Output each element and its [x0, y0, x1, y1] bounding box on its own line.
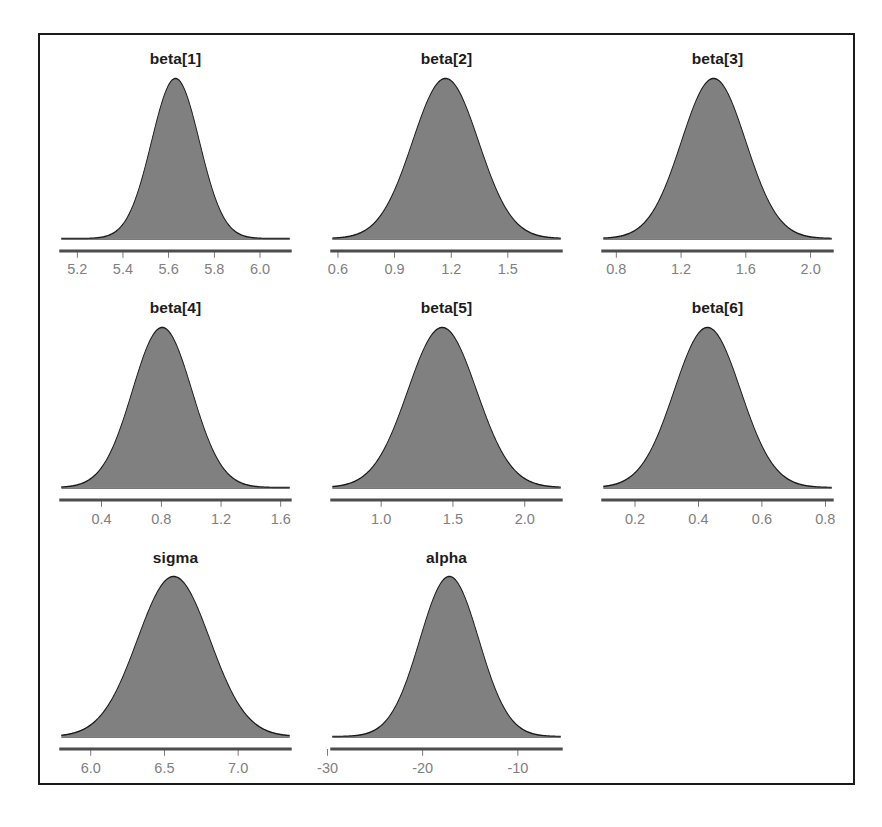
- density-fill: [603, 78, 831, 238]
- panel-title: beta[2]: [421, 51, 473, 67]
- panel-title: beta[5]: [421, 300, 473, 316]
- density-fill: [61, 577, 289, 737]
- density-svg: [50, 71, 301, 262]
- x-axis-tick-labels: 0.60.91.21.5: [321, 262, 572, 284]
- x-axis-tick-labels: 0.81.21.62.0: [592, 262, 843, 284]
- density-curve-area: [50, 569, 301, 760]
- density-curve-area: [592, 320, 843, 511]
- x-tick-label: 2.0: [801, 262, 821, 277]
- density-fill: [332, 577, 560, 737]
- panel-title: beta[3]: [692, 51, 744, 67]
- x-tick-label: 1.6: [736, 262, 756, 277]
- density-svg: [321, 71, 572, 262]
- density-panel-sigma: sigma6.06.57.0: [40, 534, 311, 783]
- density-panel-beta4: beta[4]0.40.81.21.6: [40, 284, 311, 533]
- x-axis-tick-labels: 5.25.45.65.86.0: [50, 262, 301, 284]
- density-curve-area: [321, 320, 572, 511]
- x-tick-label: 1.5: [498, 262, 518, 277]
- density-panel-alpha: alpha-30-20-10: [311, 534, 582, 783]
- density-fill: [332, 78, 560, 238]
- panel-title: sigma: [153, 550, 198, 566]
- density-panel-beta2: beta[2]0.60.91.21.5: [311, 35, 582, 284]
- density-curve-area: [321, 71, 572, 262]
- density-curve-area: [321, 569, 572, 760]
- density-fill: [61, 78, 289, 238]
- density-svg: [50, 569, 301, 760]
- panel-title: beta[6]: [692, 300, 744, 316]
- density-panel-beta6: beta[6]0.20.40.60.8: [582, 284, 853, 533]
- x-tick-label: 0.4: [688, 512, 708, 527]
- panel-title: alpha: [426, 550, 467, 566]
- density-svg: [592, 320, 843, 511]
- panel-title: beta[1]: [150, 51, 202, 67]
- x-tick-label: 0.8: [815, 512, 835, 527]
- x-axis-tick-labels: 0.40.81.21.6: [50, 512, 301, 534]
- density-panel-beta1: beta[1]5.25.45.65.86.0: [40, 35, 311, 284]
- density-svg: [321, 569, 572, 760]
- panel-title: beta[4]: [150, 300, 202, 316]
- figure-frame: beta[1]5.25.45.65.86.0beta[2]0.60.91.21.…: [38, 33, 855, 785]
- x-tick-label: -30: [317, 761, 338, 776]
- x-tick-label: 0.2: [625, 512, 645, 527]
- x-tick-label: 1.2: [211, 512, 231, 527]
- x-tick-label: 1.0: [371, 512, 391, 527]
- x-tick-label: 5.2: [67, 262, 87, 277]
- x-tick-label: 1.2: [441, 262, 461, 277]
- x-tick-label: 0.9: [384, 262, 404, 277]
- x-tick-label: 1.5: [443, 512, 463, 527]
- x-tick-label: 1.2: [671, 262, 691, 277]
- density-panel-beta5: beta[5]1.01.52.0: [311, 284, 582, 533]
- x-tick-label: 5.4: [113, 262, 133, 277]
- x-tick-label: 2.0: [515, 512, 535, 527]
- x-tick-label: 0.8: [151, 512, 171, 527]
- x-tick-label: 0.6: [752, 512, 772, 527]
- x-tick-label: -20: [412, 761, 433, 776]
- x-tick-label: 6.0: [81, 761, 101, 776]
- x-tick-label: 5.6: [159, 262, 179, 277]
- x-axis-tick-labels: 1.01.52.0: [321, 512, 572, 534]
- density-svg: [50, 320, 301, 511]
- density-fill: [332, 327, 560, 487]
- x-tick-label: 1.6: [271, 512, 291, 527]
- density-svg: [321, 320, 572, 511]
- density-curve-area: [50, 320, 301, 511]
- density-fill: [61, 327, 289, 487]
- density-curve-area: [592, 71, 843, 262]
- density-fill: [603, 327, 831, 487]
- x-tick-label: 5.8: [204, 262, 224, 277]
- density-svg: [592, 71, 843, 262]
- x-tick-label: -10: [507, 761, 528, 776]
- x-tick-label: 0.6: [328, 262, 348, 277]
- x-axis-tick-labels: 6.06.57.0: [50, 761, 301, 783]
- x-tick-label: 0.8: [606, 262, 626, 277]
- panel-grid: beta[1]5.25.45.65.86.0beta[2]0.60.91.21.…: [40, 35, 853, 783]
- x-tick-label: 7.0: [228, 761, 248, 776]
- density-panel-beta3: beta[3]0.81.21.62.0: [582, 35, 853, 284]
- x-tick-label: 6.0: [250, 262, 270, 277]
- x-tick-label: 0.4: [92, 512, 112, 527]
- x-tick-label: 6.5: [154, 761, 174, 776]
- x-axis-tick-labels: -30-20-10: [321, 761, 572, 783]
- x-axis-tick-labels: 0.20.40.60.8: [592, 512, 843, 534]
- density-curve-area: [50, 71, 301, 262]
